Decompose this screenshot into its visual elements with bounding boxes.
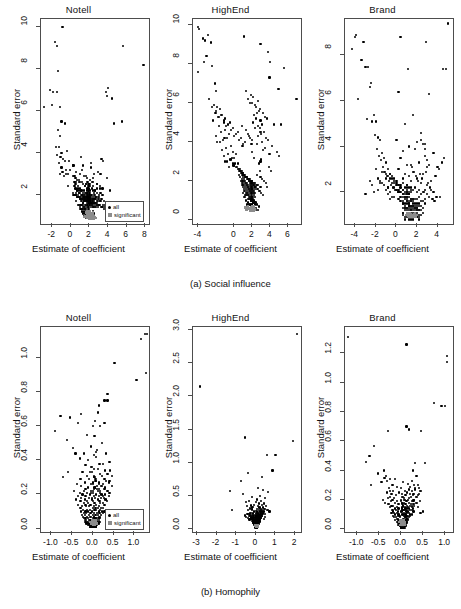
data-point [263, 518, 265, 520]
data-point [385, 177, 387, 179]
data-point [204, 39, 206, 41]
data-point [54, 430, 56, 432]
data-point [102, 160, 104, 162]
data-point [408, 428, 410, 430]
caption-subfigure-b: (b) Homophily [0, 586, 461, 597]
y-tick [340, 411, 344, 412]
data-point [404, 123, 406, 125]
data-point [420, 182, 422, 184]
subfigure-a: Notell-202468246810Estimate of coefficie… [0, 0, 461, 300]
data-point [395, 494, 397, 496]
x-tick [233, 223, 234, 227]
data-point [385, 161, 387, 163]
data-point [84, 481, 86, 483]
data-point [79, 478, 81, 480]
data-point [267, 491, 269, 493]
data-point [418, 189, 420, 191]
data-point [97, 468, 99, 470]
x-tick [287, 223, 288, 227]
data-point [145, 372, 147, 374]
x-tick [378, 531, 379, 535]
y-tick [36, 391, 40, 392]
data-point [76, 483, 78, 485]
data-point [383, 469, 385, 471]
data-point [103, 399, 105, 401]
y-tick [36, 459, 40, 460]
data-point [408, 488, 410, 490]
data-point [376, 148, 378, 150]
data-point [404, 218, 406, 220]
data-point [94, 497, 96, 499]
data-point [111, 475, 113, 477]
data-point [256, 143, 258, 145]
subfigure-b: Notell-1.0-0.50.00.51.00.00.20.40.60.81.… [0, 308, 461, 608]
y-tick-label: 8 [322, 44, 334, 64]
data-point [233, 135, 235, 137]
data-point [418, 487, 420, 489]
data-point [268, 510, 270, 512]
x-tick [70, 223, 71, 227]
data-point [401, 509, 403, 511]
y-tick [36, 194, 40, 195]
data-point [253, 114, 255, 116]
y-tick [188, 24, 192, 25]
data-point [420, 490, 422, 492]
data-point [230, 145, 232, 147]
data-point [410, 205, 412, 207]
data-point [417, 180, 419, 182]
y-tick-label: 0.0 [170, 518, 182, 538]
data-point [79, 173, 81, 175]
data-point [246, 194, 248, 196]
data-point [84, 464, 86, 466]
data-point [404, 196, 406, 198]
data-point [422, 143, 424, 145]
data-point [435, 196, 437, 198]
data-point [373, 114, 375, 116]
data-point [51, 104, 53, 106]
data-point [262, 194, 264, 196]
data-point [60, 166, 62, 168]
data-point [441, 161, 443, 163]
data-point [401, 496, 403, 498]
data-point [252, 121, 254, 123]
data-point [242, 493, 244, 495]
data-point [86, 492, 88, 494]
data-point [375, 120, 377, 122]
data-point [402, 182, 404, 184]
data-point [91, 471, 93, 473]
x-tick [133, 531, 134, 535]
data-point [259, 186, 261, 188]
data-point [392, 490, 394, 492]
legend-swatch-significant-icon [108, 213, 112, 217]
data-point [113, 122, 115, 124]
data-point [90, 162, 92, 164]
legend-item-significant: significant [108, 211, 141, 219]
data-point [423, 191, 425, 193]
plot-area [192, 326, 302, 533]
caption-subfigure-a: (a) Social influence [0, 278, 461, 289]
data-point [249, 508, 251, 510]
data-point [96, 187, 98, 189]
data-point [417, 506, 419, 508]
data-point [103, 422, 105, 424]
data-point [419, 173, 421, 175]
data-point [225, 147, 227, 149]
data-point [382, 499, 384, 501]
data-point [424, 462, 426, 464]
x-tick-label: 4 [417, 229, 457, 239]
data-point [397, 503, 399, 505]
data-point [250, 143, 252, 145]
data-point [207, 34, 209, 36]
data-point [113, 362, 115, 364]
y-tick [340, 100, 344, 101]
data-point [247, 98, 249, 100]
data-point [402, 189, 404, 191]
data-point [94, 194, 96, 196]
data-point [86, 192, 88, 194]
data-point [438, 168, 440, 170]
data-point [405, 343, 407, 345]
y-tick [36, 357, 40, 358]
data-point [108, 492, 110, 494]
data-point [267, 51, 269, 53]
data-point-significant [401, 522, 403, 524]
